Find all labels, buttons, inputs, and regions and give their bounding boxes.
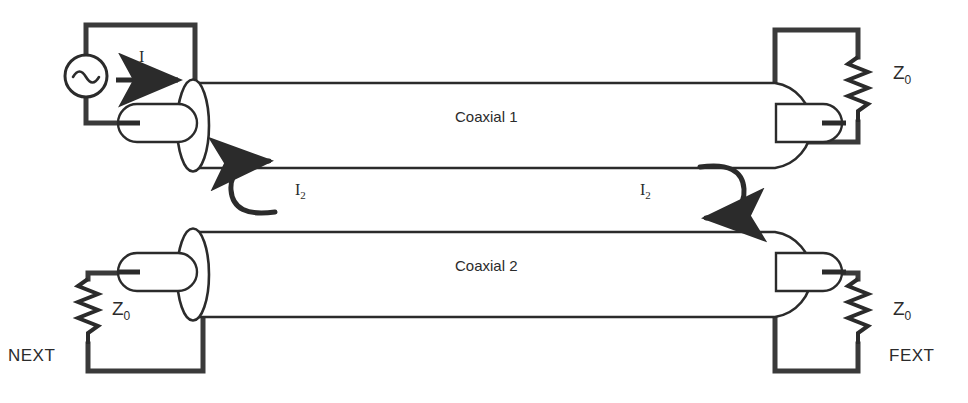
resistor-bottom-right (848, 279, 868, 344)
induced-current-right-arrow (700, 166, 744, 218)
connector-top-left (118, 104, 197, 142)
connector-bottom-left (118, 253, 197, 291)
connector-bottom-right (776, 253, 846, 291)
coaxial-2-body (177, 229, 811, 321)
current-label-induced-left-sub: 2 (300, 189, 306, 201)
impedance-label-top-right-text: Z (893, 62, 905, 83)
crosstalk-schematic-svg (0, 0, 968, 403)
current-label-drive-text: I (139, 48, 144, 65)
impedance-label-bottom-left-sub: 0 (124, 309, 131, 323)
current-label-induced-left: I2 (295, 181, 306, 201)
current-label-induced-right: I2 (640, 181, 651, 201)
ac-source-symbol (65, 55, 107, 97)
cable-label-coaxial-2: Coaxial 2 (455, 257, 518, 274)
connector-top-right (776, 104, 846, 142)
diagram-canvas: Coaxial 1 Coaxial 2 I I2 I2 Z0 Z0 Z0 NEX… (0, 0, 968, 403)
impedance-label-bottom-right-sub: 0 (905, 309, 912, 323)
impedance-label-bottom-left: Z0 (112, 298, 130, 323)
impedance-label-top-right-sub: 0 (905, 73, 912, 87)
port-label-fext: FEXT (889, 346, 934, 366)
current-label-induced-right-sub: 2 (645, 189, 651, 201)
resistor-top-right (848, 57, 868, 122)
impedance-label-bottom-left-text: Z (112, 298, 124, 319)
coaxial-1-body (177, 80, 811, 172)
resistor-bottom-left (78, 279, 98, 344)
impedance-label-bottom-right-text: Z (893, 298, 905, 319)
cable-label-coaxial-1: Coaxial 1 (455, 108, 518, 125)
current-label-drive: I (139, 48, 144, 66)
impedance-label-top-right: Z0 (893, 62, 911, 87)
port-label-next: NEXT (8, 346, 55, 366)
impedance-label-bottom-right: Z0 (893, 298, 911, 323)
